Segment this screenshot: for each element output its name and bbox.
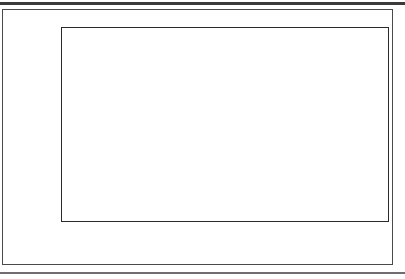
page-rule-top [0, 2, 405, 5]
figure-frame [2, 9, 393, 265]
page-rule-bottom [0, 272, 405, 274]
bars-layer [61, 27, 389, 222]
